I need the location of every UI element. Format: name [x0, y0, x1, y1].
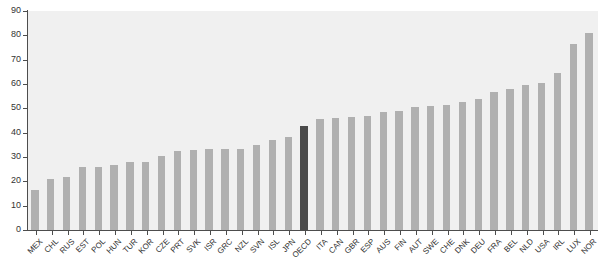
bar	[538, 83, 545, 230]
bar-slot	[408, 11, 424, 230]
bar-slot	[186, 11, 202, 230]
y-axis-tick	[23, 230, 27, 231]
bar	[142, 162, 149, 230]
x-axis-tick	[131, 231, 132, 235]
bar-slot	[60, 11, 76, 230]
bar	[158, 156, 165, 230]
x-axis-tick	[416, 231, 417, 235]
x-axis-tick	[52, 231, 53, 235]
bar	[554, 73, 561, 230]
bar	[269, 140, 276, 230]
bar	[427, 106, 434, 230]
x-axis-tick	[258, 231, 259, 235]
x-axis-tick	[99, 231, 100, 235]
x-axis-tick	[194, 231, 195, 235]
bar-series	[28, 11, 598, 230]
y-axis-tick-label: 30	[1, 152, 21, 161]
bar-slot	[202, 11, 218, 230]
bar	[221, 149, 228, 230]
bar-slot	[361, 11, 377, 230]
y-axis-tick	[23, 84, 27, 85]
bar-slot	[440, 11, 456, 230]
bar	[285, 137, 292, 230]
bar-slot	[155, 11, 171, 230]
x-axis-tick	[210, 231, 211, 235]
y-axis-tick	[23, 60, 27, 61]
x-axis-tick	[321, 231, 322, 235]
bar-slot	[519, 11, 535, 230]
bar	[443, 105, 450, 230]
x-axis-tick	[495, 231, 496, 235]
x-axis-tick	[574, 231, 575, 235]
bar	[31, 190, 38, 230]
bar-slot	[123, 11, 139, 230]
bar	[364, 116, 371, 230]
bar	[380, 112, 387, 230]
bar-slot	[107, 11, 123, 230]
bar-slot	[424, 11, 440, 230]
bar-slot	[566, 11, 582, 230]
bar-slot	[535, 11, 551, 230]
bar	[459, 102, 466, 230]
x-axis-tick	[337, 231, 338, 235]
x-axis-tick	[68, 231, 69, 235]
y-axis-tick	[23, 35, 27, 36]
x-axis-tick	[527, 231, 528, 235]
bar	[110, 165, 117, 230]
bar-slot	[281, 11, 297, 230]
y-axis-tick	[23, 108, 27, 109]
x-axis-tick	[590, 231, 591, 235]
bar	[190, 150, 197, 230]
x-axis-tick	[242, 231, 243, 235]
bar	[316, 119, 323, 230]
x-axis-tick	[558, 231, 559, 235]
bar-slot	[171, 11, 187, 230]
bar-slot	[28, 11, 44, 230]
bar-slot	[487, 11, 503, 230]
y-axis-tick-label: 10	[1, 201, 21, 210]
bar	[63, 177, 70, 230]
x-axis-tick	[289, 231, 290, 235]
y-axis-tick	[23, 206, 27, 207]
bar	[79, 167, 86, 230]
x-axis-tick	[178, 231, 179, 235]
x-axis-tick	[479, 231, 480, 235]
bar-slot	[297, 11, 313, 230]
x-axis-tick	[273, 231, 274, 235]
x-axis-tick	[432, 231, 433, 235]
bar	[348, 117, 355, 230]
y-axis-tick	[23, 133, 27, 134]
bar	[174, 151, 181, 230]
x-axis-tick	[305, 231, 306, 235]
bar-chart: 0102030405060708090 MEXCHLRUSESTPOLHUNTU…	[0, 0, 604, 267]
bar	[585, 33, 592, 230]
bar	[395, 111, 402, 230]
bar	[570, 44, 577, 230]
bar-slot	[456, 11, 472, 230]
y-axis-tick-label: 70	[1, 55, 21, 64]
x-axis-line	[27, 230, 598, 231]
y-axis-tick-label: 40	[1, 128, 21, 137]
x-axis-tick	[147, 231, 148, 235]
bar-slot	[313, 11, 329, 230]
bar-slot	[218, 11, 234, 230]
bar	[95, 167, 102, 231]
bar-slot	[266, 11, 282, 230]
bar-slot	[471, 11, 487, 230]
x-axis-tick	[115, 231, 116, 235]
x-axis-tick	[226, 231, 227, 235]
bar	[237, 149, 244, 230]
x-axis-tick	[543, 231, 544, 235]
x-axis-tick	[384, 231, 385, 235]
x-axis-tick	[368, 231, 369, 235]
x-axis-tick	[163, 231, 164, 235]
bar-slot	[139, 11, 155, 230]
bar	[205, 149, 212, 230]
bar-slot	[91, 11, 107, 230]
bar	[522, 85, 529, 230]
y-axis-tick-label: 60	[1, 79, 21, 88]
y-axis-tick	[23, 157, 27, 158]
y-axis-tick-label: 50	[1, 103, 21, 112]
bar-highlight	[300, 126, 307, 230]
bar	[475, 99, 482, 230]
